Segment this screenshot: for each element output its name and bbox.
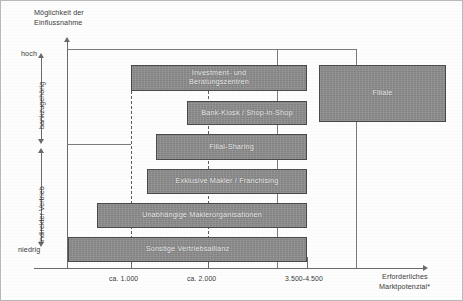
x-tick-label-3: 3.500-4.500 bbox=[285, 275, 323, 284]
x-axis-title-line2: Marktpotenzial* bbox=[379, 283, 430, 292]
x-tick-label-1: ca. 1.000 bbox=[109, 275, 138, 284]
x-axis-arrow bbox=[423, 265, 428, 271]
bar-unabhaengige-maklerorganisationen[interactable]: Unabhängige Maklerorganisationen bbox=[97, 203, 307, 228]
bracket-bankzugehoerig-arrow-up bbox=[38, 53, 44, 58]
connector-filiale-top bbox=[356, 49, 357, 66]
connector-spine-3 bbox=[277, 160, 278, 169]
group-label-indirekter-vertrieb: Indirekter Vertrieb bbox=[37, 186, 46, 243]
connector-top-branch-left bbox=[277, 49, 278, 65]
y-label-low: niedrig bbox=[18, 246, 40, 255]
group-label-bankzugehoerig: bankzugehörig bbox=[37, 82, 46, 129]
connector-spine-2 bbox=[277, 125, 278, 134]
connector-top-horizontal bbox=[67, 49, 357, 50]
bracket-indirekter-arrow-up bbox=[38, 148, 44, 153]
y-axis-title-line2: Einflussnahme bbox=[34, 19, 82, 28]
bracket-bankzugehoerig-arrow-down bbox=[38, 139, 44, 144]
connector-mid-horizontal bbox=[67, 144, 131, 145]
figure-container: Möglichkeit der Einflussnahme hoch niedr… bbox=[0, 0, 463, 301]
bar-filiale[interactable]: Filiale bbox=[319, 65, 446, 122]
bar-bank-kiosk-shop-in-shop[interactable]: Bank-Kiosk / Shop-in-Shop bbox=[187, 101, 307, 125]
y-axis-title-line1: Möglichkeit der bbox=[34, 9, 84, 18]
bar-investment-beratungszentren[interactable]: Investment- und Beratungszentren bbox=[131, 65, 307, 91]
connector-filiale-bottom bbox=[356, 121, 357, 268]
connector-spine-4 bbox=[277, 194, 278, 203]
x-tick-mark-1 bbox=[131, 264, 132, 269]
connector-spine-5 bbox=[277, 228, 278, 237]
bar-filial-sharing[interactable]: Filial-Sharing bbox=[156, 134, 307, 160]
x-tick-mark-2 bbox=[208, 264, 209, 269]
x-axis-title-line1: Erforderliches bbox=[382, 273, 428, 282]
y-axis-line bbox=[67, 42, 68, 269]
y-label-high: hoch bbox=[21, 50, 37, 59]
bar-exklusive-makler-franchising[interactable]: Exklusive Makler / Franchising bbox=[147, 169, 307, 194]
x-tick-mark-3 bbox=[307, 257, 308, 269]
x-tick-label-2: ca. 2.000 bbox=[187, 275, 216, 284]
connector-spine-1 bbox=[277, 91, 278, 101]
bar-sonstige-vertriebsallianz[interactable]: Sonstige Vertriebsallianz bbox=[68, 237, 307, 262]
x-axis-line bbox=[34, 268, 424, 269]
y-axis-arrow bbox=[64, 37, 70, 42]
